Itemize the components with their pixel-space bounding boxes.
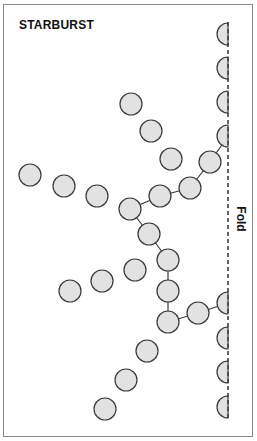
- half-circle-node: [217, 57, 228, 79]
- circle-node: [119, 198, 141, 220]
- half-circle-node: [217, 361, 228, 383]
- circle-node: [53, 175, 75, 197]
- circle-node: [86, 185, 108, 207]
- circle-node: [199, 151, 221, 173]
- circle-node: [157, 311, 179, 333]
- circle-node: [160, 148, 182, 170]
- circles: [19, 93, 221, 420]
- half-circle-node: [217, 91, 228, 113]
- circle-node: [179, 177, 201, 199]
- circle-node: [120, 93, 142, 115]
- half-circles: [217, 22, 228, 418]
- circle-node: [157, 280, 179, 302]
- circle-node: [59, 280, 81, 302]
- fold-label: Fold: [234, 204, 248, 234]
- circle-node: [124, 259, 146, 281]
- circle-node: [140, 120, 162, 142]
- circle-node: [138, 223, 160, 245]
- circle-node: [19, 164, 41, 186]
- circle-node: [149, 185, 171, 207]
- circle-node: [187, 302, 209, 324]
- circle-node: [115, 369, 137, 391]
- half-circle-node: [217, 292, 228, 314]
- half-circle-node: [217, 23, 228, 45]
- circle-node: [157, 249, 179, 271]
- circle-node: [136, 340, 158, 362]
- half-circle-node: [217, 327, 228, 349]
- starburst-diagram: [0, 0, 257, 441]
- circle-node: [91, 270, 113, 292]
- half-circle-node: [217, 396, 228, 418]
- circle-node: [94, 398, 116, 420]
- half-circle-node: [217, 125, 228, 147]
